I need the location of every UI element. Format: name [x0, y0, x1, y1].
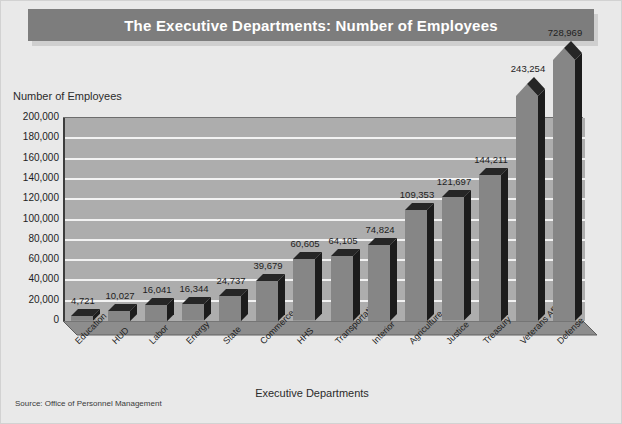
- x-axis-category-label: Justice: [444, 319, 471, 346]
- bar-treasury: [479, 168, 508, 321]
- x-axis-category-label: State: [221, 324, 243, 346]
- bar-value-label: 728,969: [537, 27, 593, 38]
- x-axis-title: Executive Departments: [1, 387, 622, 399]
- bar-hhs: [293, 252, 322, 321]
- chart-page: The Executive Departments: Number of Emp…: [0, 0, 622, 424]
- bar-veterans-affairs: [516, 77, 545, 321]
- bar-agriculture: [405, 203, 434, 321]
- bar-value-label: 24,737: [203, 275, 259, 286]
- bar-value-label: 121,697: [426, 176, 482, 187]
- bar-value-label: 243,254: [500, 63, 556, 74]
- bar-value-label: 39,679: [240, 260, 296, 271]
- bar-labor: [145, 298, 174, 321]
- bars-layer: 4,721Education10,027HUD16,041Labor16,344…: [1, 1, 622, 424]
- bar-value-label: 74,824: [352, 224, 408, 235]
- bar-state: [219, 289, 248, 321]
- bar-value-label: 64,105: [315, 235, 371, 246]
- bar-value-label: 109,353: [389, 189, 445, 200]
- bar-interior: [368, 238, 397, 321]
- bar-hud: [108, 304, 137, 321]
- x-axis-category-label: Labor: [147, 323, 170, 346]
- bar-justice: [442, 190, 471, 321]
- x-axis-category-label: Interior: [370, 319, 397, 346]
- x-axis-category-label: HHS: [295, 326, 316, 347]
- source-note: Source: Office of Personnel Management: [15, 399, 162, 408]
- x-axis-category-label: Energy: [184, 319, 211, 346]
- bar-transportation: [331, 249, 360, 321]
- bar-energy: [182, 297, 211, 321]
- bar-commerce: [256, 274, 285, 321]
- bar-defense: [553, 41, 582, 321]
- bar-value-label: 144,211: [463, 154, 519, 165]
- x-axis-category-label: HUD: [110, 325, 131, 346]
